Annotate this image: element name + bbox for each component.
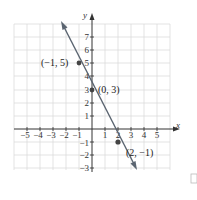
line-arrow-top-icon [61, 21, 68, 30]
x-tick-label: −4 [33, 130, 43, 140]
y-tick-label: −1 [79, 138, 89, 148]
x-tick-labels: −5 −4 −3 −2 −1 1 2 3 4 5 [20, 130, 160, 140]
y-tick-label: 1 [85, 111, 90, 121]
point-2-neg1 [115, 139, 120, 144]
y-tick-label: 2 [85, 98, 90, 108]
x-tick-label: 4 [142, 130, 147, 140]
y-tick-labels: −3 −2 −1 1 2 3 4 5 6 7 [79, 32, 89, 173]
x-tick-label: 3 [129, 130, 134, 140]
coordinate-plane: x y −5 −4 −3 −2 −1 1 2 3 4 5 −3 −2 −1 1 … [0, 0, 197, 200]
x-tick-label: −5 [20, 130, 30, 140]
line-arrow-bottom-icon [131, 161, 138, 170]
y-tick-label: 3 [85, 85, 90, 95]
x-tick-label: −2 [59, 130, 69, 140]
y-axis-arrow-icon [90, 13, 95, 20]
x-axis-label: x [175, 120, 180, 130]
corner-mark-icon [191, 174, 197, 183]
point-0-3 [90, 88, 95, 93]
point-label-neg1-5: (−1, 5) [41, 57, 68, 69]
graph-line [64, 27, 134, 164]
y-tick-label: 6 [85, 45, 90, 55]
point-label-0-3: (0, 3) [98, 84, 120, 96]
point-label-2-neg1: (2, −1) [126, 147, 153, 159]
y-axis-label: y [82, 10, 87, 20]
x-tick-label: 1 [103, 130, 108, 140]
x-tick-label: 5 [155, 130, 160, 140]
point-neg1-5 [77, 61, 82, 66]
y-tick-label: −3 [79, 163, 89, 173]
y-tick-label: −2 [79, 150, 89, 160]
y-tick-label: 7 [85, 32, 90, 42]
y-tick-label: 5 [85, 58, 90, 68]
x-tick-label: −3 [46, 130, 56, 140]
